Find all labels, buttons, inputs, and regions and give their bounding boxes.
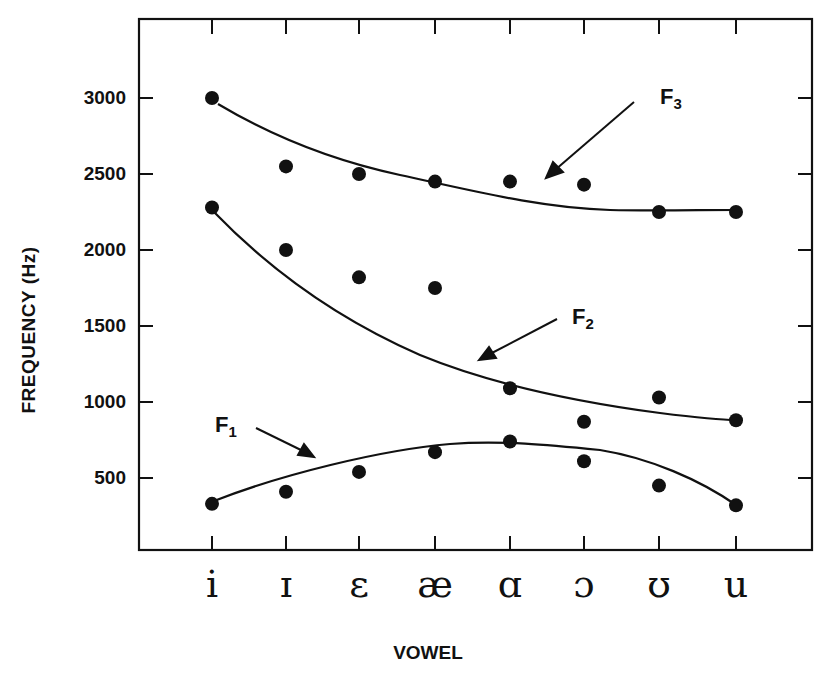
f1-data-point bbox=[729, 498, 743, 512]
annotation-arrows bbox=[256, 102, 634, 457]
f1-data-point bbox=[279, 485, 293, 499]
x-ticks-bottom bbox=[212, 536, 736, 550]
f1-fit-curve bbox=[214, 443, 736, 505]
x-tick-label-epsilon: ɛ bbox=[334, 565, 384, 603]
y-tick-label-1000: 1000 bbox=[56, 391, 126, 413]
x-axis-label: VOWEL bbox=[0, 642, 832, 664]
f3-letter: F bbox=[660, 84, 673, 109]
x-tick-label-u: u bbox=[711, 565, 761, 603]
f2-arrowhead-icon bbox=[479, 347, 496, 360]
f2-data-point bbox=[428, 281, 442, 295]
x-tick-label-script-a: ɑ bbox=[485, 565, 535, 603]
y-tick-label-1500: 1500 bbox=[56, 315, 126, 337]
y-tick-label-500: 500 bbox=[56, 467, 126, 489]
y-axis-label-wrap: FREQUENCY (Hz) bbox=[14, 200, 44, 460]
y-ticks-left bbox=[139, 98, 153, 478]
formant-chart: FREQUENCY (Hz) VOWEL 3000 2500 2000 1500… bbox=[0, 0, 832, 685]
f1-data-point bbox=[503, 435, 517, 449]
y-tick-label-2000: 2000 bbox=[56, 239, 126, 261]
f3-data-point bbox=[279, 159, 293, 173]
x-tick-label-upsilon: ʊ bbox=[634, 565, 684, 603]
f2-data-point bbox=[577, 415, 591, 429]
f2-subscript: 2 bbox=[585, 315, 593, 332]
x-tick-label-small-cap-i: ɪ bbox=[261, 565, 311, 603]
f3-data-point bbox=[503, 175, 517, 189]
f3-data-point bbox=[352, 167, 366, 181]
f2-data-point bbox=[205, 200, 219, 214]
y-tick-label-3000: 3000 bbox=[56, 87, 126, 109]
f3-fit-curve bbox=[218, 104, 736, 210]
f2-annotation: F2 bbox=[572, 304, 594, 332]
f1-subscript: 1 bbox=[228, 423, 236, 440]
x-ticks-top bbox=[212, 19, 736, 34]
x-tick-label-ash: æ bbox=[410, 565, 460, 603]
f2-data-point bbox=[352, 270, 366, 284]
f2-letter: F bbox=[572, 304, 585, 329]
f2-arrow bbox=[488, 319, 557, 355]
f1-annotation: F1 bbox=[215, 412, 237, 440]
y-tick-label-2500: 2500 bbox=[56, 163, 126, 185]
f3-data-point bbox=[428, 175, 442, 189]
f1-data-point bbox=[205, 497, 219, 511]
f3-data-point bbox=[652, 205, 666, 219]
f1-arrow bbox=[256, 428, 305, 452]
f2-data-point bbox=[279, 243, 293, 257]
f3-subscript: 3 bbox=[673, 95, 681, 112]
f1-data-point bbox=[428, 445, 442, 459]
f3-data-point bbox=[205, 91, 219, 105]
f1-data-point bbox=[352, 465, 366, 479]
data-points bbox=[205, 91, 743, 512]
f3-data-point bbox=[577, 178, 591, 192]
plot-frame bbox=[139, 19, 812, 550]
f1-letter: F bbox=[215, 412, 228, 437]
f3-data-point bbox=[729, 205, 743, 219]
f2-fit-curve bbox=[214, 212, 736, 420]
f3-arrow bbox=[555, 102, 634, 170]
f2-data-point bbox=[652, 390, 666, 404]
f2-data-point bbox=[729, 413, 743, 427]
y-ticks-right bbox=[798, 98, 812, 478]
x-tick-label-open-o: ɔ bbox=[559, 565, 609, 603]
f1-arrowhead-icon bbox=[298, 444, 314, 457]
x-tick-label-i: i bbox=[187, 565, 237, 603]
f1-data-point bbox=[577, 454, 591, 468]
y-axis-label: FREQUENCY (Hz) bbox=[18, 246, 40, 413]
f3-annotation: F3 bbox=[660, 84, 682, 112]
f1-data-point bbox=[652, 479, 666, 493]
f2-data-point bbox=[503, 381, 517, 395]
